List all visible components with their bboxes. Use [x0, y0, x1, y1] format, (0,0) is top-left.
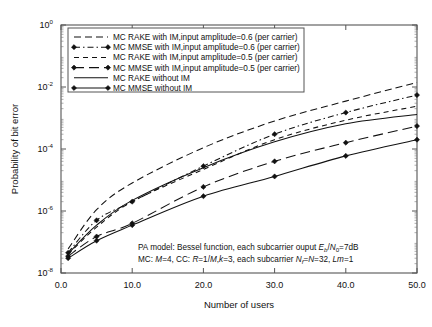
- chart-svg: 0.010.020.030.040.050.010010-210-410-610…: [0, 0, 432, 327]
- annotation-line-2: MC: M=4, CC: R=1/M,k=3, each subcarrier …: [138, 255, 354, 265]
- legend: MC RAKE with IM,input amplitude=0.6 (per…: [68, 28, 304, 93]
- legend-item-label: MC RAKE without IM: [113, 74, 190, 83]
- legend-item-label: MC MMSE without IM: [113, 84, 192, 93]
- x-tick-label: 10.0: [123, 280, 141, 290]
- x-tick-label: 30.0: [266, 280, 284, 290]
- y-axis-title: Probability of bit error: [9, 104, 20, 194]
- x-tick-label: 0.0: [55, 280, 68, 290]
- legend-item-label: MC RAKE with IM,input amplitude=0.5 (per…: [113, 53, 298, 62]
- x-axis-title: Number of users: [204, 299, 274, 310]
- legend-item-label: MC RAKE with IM,input amplitude=0.6 (per…: [113, 33, 298, 42]
- legend-item-label: MC MMSE with IM,input amplitude=0.5 (per…: [113, 64, 300, 73]
- figure-chart: 0.010.020.030.040.050.010010-210-410-610…: [0, 0, 432, 327]
- x-tick-label: 50.0: [408, 280, 426, 290]
- x-tick-label: 40.0: [337, 280, 355, 290]
- legend-item-label: MC MMSE with IM,input amplitude=0.6 (per…: [113, 43, 300, 52]
- x-tick-label: 20.0: [195, 280, 213, 290]
